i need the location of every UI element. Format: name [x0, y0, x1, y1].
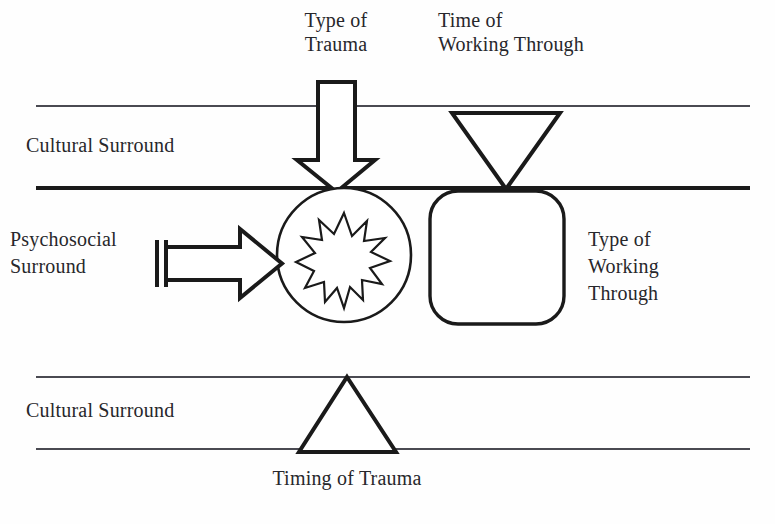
label-type-of-trauma: Type of Trauma [276, 8, 396, 57]
label-timing-of-trauma: Timing of Trauma [217, 466, 477, 490]
label-cultural-surround-top: Cultural Surround [26, 133, 174, 157]
label-time-of-working-through: Time of Working Through [438, 8, 668, 57]
rounded-square-shape [430, 191, 564, 324]
triangle-icon [299, 377, 396, 452]
right-arrow-icon [166, 229, 282, 298]
down-arrow-icon [297, 82, 375, 192]
diagram-canvas: Type of Trauma Time of Working Through C… [0, 0, 775, 524]
inverted-triangle-icon [452, 113, 560, 189]
label-type-of-working-through: Type of Working Through [588, 226, 758, 307]
label-cultural-surround-bottom: Cultural Surround [26, 398, 174, 422]
label-psychosocial-surround: Psychosocial Surround [10, 226, 160, 280]
